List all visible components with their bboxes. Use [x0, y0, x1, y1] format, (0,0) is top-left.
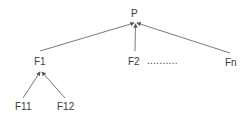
node-f2: F2	[128, 57, 140, 67]
node-fn: Fn	[225, 58, 237, 68]
edge-f12-to-f1	[42, 72, 65, 98]
node-p: P	[131, 9, 138, 19]
ellipsis: ..........	[147, 56, 178, 66]
node-f1: F1	[34, 57, 46, 67]
node-f12: F12	[57, 102, 74, 112]
edge-f2-to-p	[135, 24, 136, 51]
node-f11: F11	[15, 102, 32, 112]
edge-fn-to-p	[137, 23, 230, 53]
edge-f11-to-f1	[23, 72, 40, 98]
edge-f1-to-p	[40, 23, 134, 51]
